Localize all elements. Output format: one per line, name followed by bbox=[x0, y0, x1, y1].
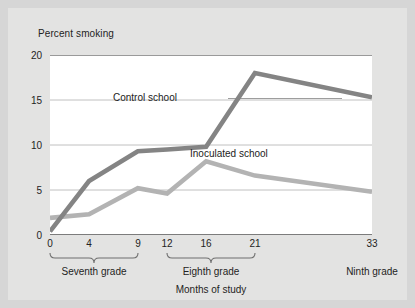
eighth-grade-bracket bbox=[167, 253, 255, 263]
x-tick-label-12: 12 bbox=[161, 238, 172, 249]
y-axis-title: Percent smoking bbox=[38, 28, 114, 39]
seventh-grade-label: Seventh grade bbox=[61, 266, 126, 277]
y-tick-label-15: 15 bbox=[16, 95, 42, 106]
y-tick-label-20: 20 bbox=[16, 50, 42, 61]
plot-svg bbox=[50, 55, 372, 235]
eighth-grade-label: Eighth grade bbox=[183, 266, 240, 277]
control-school-label: Control school bbox=[113, 92, 177, 103]
seventh-grade-bracket bbox=[50, 253, 138, 263]
y-tick-label-10: 10 bbox=[16, 140, 42, 151]
x-tick-label-16: 16 bbox=[200, 238, 211, 249]
y-tick-label-5: 5 bbox=[16, 185, 42, 196]
inoculated-school-label: Inoculated school bbox=[190, 148, 268, 159]
x-axis-title: Months of study bbox=[176, 284, 247, 295]
x-tick-label-33: 33 bbox=[366, 238, 377, 249]
x-tick-label-0: 0 bbox=[47, 238, 53, 249]
x-tick-label-4: 4 bbox=[86, 238, 92, 249]
x-tick-label-21: 21 bbox=[249, 238, 260, 249]
y-tick-label-0: 0 bbox=[16, 230, 42, 241]
figure: Percent smoking 20 15 10 5 0 bbox=[0, 0, 415, 308]
chart-card: Percent smoking 20 15 10 5 0 bbox=[8, 8, 407, 300]
ninth-grade-label: Ninth grade bbox=[346, 266, 398, 277]
plot-area: Control school Inoculated school bbox=[50, 55, 372, 235]
x-tick-label-9: 9 bbox=[135, 238, 141, 249]
